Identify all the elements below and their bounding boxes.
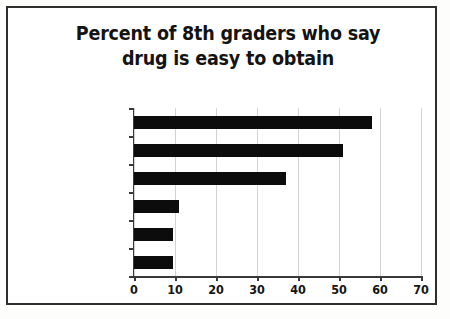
- chart-title-line-2: drug is easy to obtain: [28, 47, 428, 72]
- x-axis-tick-label: 0: [114, 282, 154, 297]
- x-axis-tick: [134, 276, 136, 281]
- x-axis-tick-label: 30: [237, 282, 277, 297]
- chart-figure: Percent of 8th graders who say drug is e…: [0, 0, 450, 319]
- gridline: [298, 108, 299, 276]
- gridline: [175, 108, 176, 276]
- x-axis-tick: [339, 276, 341, 281]
- y-axis-tick: [129, 108, 134, 110]
- x-axis-tick-label: 40: [278, 282, 318, 297]
- chart-title-line-1: Percent of 8th graders who say: [28, 22, 428, 47]
- x-axis-tick-label: 50: [319, 282, 359, 297]
- x-axis-tick: [216, 276, 218, 281]
- gridline: [421, 108, 422, 276]
- y-axis-tick: [129, 248, 134, 250]
- gridline: [134, 108, 135, 276]
- bar: [134, 200, 179, 213]
- x-axis-tick-label: 10: [155, 282, 195, 297]
- gridline: [216, 108, 217, 276]
- x-axis-tick: [175, 276, 177, 281]
- x-axis-tick: [298, 276, 300, 281]
- chart-title: Percent of 8th graders who say drug is e…: [28, 22, 428, 72]
- y-axis-tick: [129, 220, 134, 222]
- bar: [134, 172, 286, 185]
- bar: [134, 144, 343, 157]
- x-axis-tick-label: 70: [401, 282, 441, 297]
- gridline: [339, 108, 340, 276]
- y-axis-tick: [129, 192, 134, 194]
- bar: [134, 256, 173, 269]
- gridline: [380, 108, 381, 276]
- y-axis-tick: [129, 276, 134, 278]
- bar: [134, 116, 372, 129]
- x-axis-tick-label: 20: [196, 282, 236, 297]
- chart-border: Percent of 8th graders who say drug is e…: [6, 6, 437, 305]
- x-axis-tick: [257, 276, 259, 281]
- plot-area: [134, 108, 421, 276]
- x-axis-tick: [380, 276, 382, 281]
- bar: [134, 228, 173, 241]
- y-axis-tick: [129, 136, 134, 138]
- x-axis-tick-label: 60: [360, 282, 400, 297]
- y-axis-tick: [129, 164, 134, 166]
- gridline: [257, 108, 258, 276]
- x-axis-tick: [421, 276, 423, 281]
